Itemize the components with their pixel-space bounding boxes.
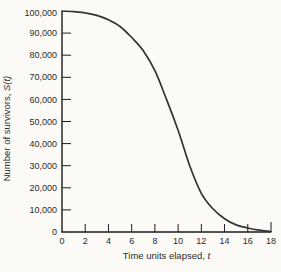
y-tick-label: 10,000 [29,205,57,215]
x-tick-label: 8 [152,236,157,246]
y-tick-label: 40,000 [29,139,57,149]
x-tick-label: 10 [173,236,183,246]
x-tick-label: 6 [129,236,134,246]
y-tick-label: 50,000 [29,117,57,127]
x-tick-label: 12 [196,236,206,246]
x-tick-label: 16 [243,236,253,246]
figure-background [0,0,281,272]
y-tick-label: 60,000 [29,95,57,105]
y-tick-label: 80,000 [29,50,57,60]
y-tick-label: 30,000 [29,161,57,171]
x-tick-label: 0 [59,236,64,246]
survival-curve-chart: 010,00020,00030,00040,00050,00060,00070,… [0,0,281,272]
x-tick-label: 18 [266,236,276,246]
y-tick-label: 0 [52,227,57,237]
survivorship-figure: 010,00020,00030,00040,00050,00060,00070,… [0,0,281,272]
y-tick-label: 70,000 [29,72,57,82]
y-tick-label: 90,000 [29,28,57,38]
y-tick-label: 100,000 [24,8,57,18]
x-tick-label: 4 [106,236,111,246]
x-axis-title: Time units elapsed, t [123,250,211,261]
y-tick-label: 20,000 [29,183,57,193]
x-tick-label: 14 [220,236,230,246]
x-tick-label: 2 [83,236,88,246]
y-axis-title: Number of survivors, S(t) [1,76,12,182]
